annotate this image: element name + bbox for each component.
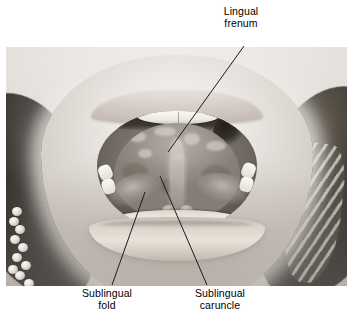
bead: [15, 225, 25, 234]
bead: [24, 279, 34, 286]
tongue-texture: [206, 141, 226, 151]
mouth-region: [89, 105, 265, 253]
label-lingual-frenum: Lingual frenum: [196, 6, 286, 29]
oral-cavity: [97, 111, 257, 229]
lower-tooth: [238, 176, 254, 194]
label-sublingual-caruncle: Sublingual caruncle: [168, 288, 272, 311]
lower-tooth: [100, 178, 116, 196]
anatomy-photograph: [6, 47, 347, 286]
tongue-texture: [154, 127, 176, 136]
bead: [10, 235, 20, 244]
bead: [12, 207, 22, 216]
bead: [18, 243, 28, 252]
bead: [21, 261, 31, 270]
tongue-texture: [184, 133, 200, 145]
label-sublingual-fold: Sublingual fold: [62, 288, 152, 311]
bead: [12, 253, 22, 262]
anatomy-figure: Lingual frenum Sublingual fold Sublingua…: [0, 0, 353, 319]
photo-content: [6, 47, 347, 286]
tongue-texture: [128, 131, 146, 142]
bead: [8, 265, 18, 274]
lower-lip-crease: [101, 221, 253, 228]
tongue-texture: [138, 149, 152, 158]
